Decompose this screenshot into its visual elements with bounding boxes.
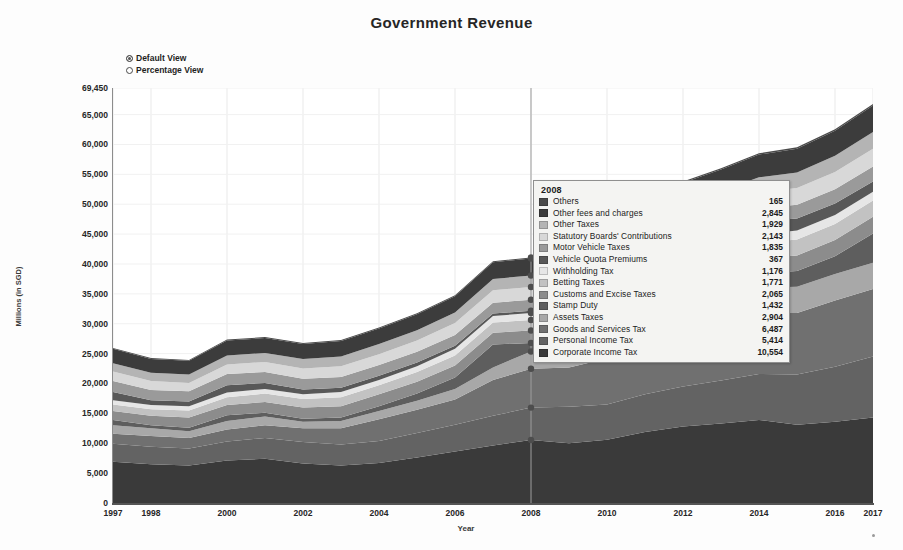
y-axis-tick: 50,000 [42,199,108,209]
y-axis-tick: 25,000 [42,349,108,359]
tooltip-row: Goods and Services Tax6,487 [539,324,783,336]
x-axis-tick: 1997 [104,508,123,518]
y-axis-title: Millions (in SGD) [14,254,23,340]
tooltip-row-list: Others165Other fees and charges2,845Othe… [539,196,783,358]
series-color-swatch-icon [539,291,548,299]
series-color-swatch-icon [539,267,548,275]
tooltip-series-name: Other fees and charges [553,208,741,220]
series-color-swatch-icon [539,337,548,345]
tooltip-series-name: Others [553,196,741,208]
tooltip-row: Customs and Excise Taxes2,065 [539,289,783,301]
chart-page: Government Revenue Default View Percenta… [0,0,903,550]
series-color-swatch-icon [539,325,548,333]
tooltip-series-name: Assets Taxes [553,312,741,324]
tooltip-series-value: 2,845 [741,208,783,220]
radio-selected-icon[interactable] [126,55,133,62]
series-color-swatch-icon [539,256,548,264]
tooltip-series-value: 1,771 [741,277,783,289]
tooltip-series-name: Statutory Boards' Contributions [553,231,741,243]
x-axis-tick: 2012 [674,508,693,518]
x-axis-tick: 2016 [826,508,845,518]
series-color-swatch-icon [539,302,548,310]
tooltip-row: Corporate Income Tax10,554 [539,347,783,359]
tooltip-row: Betting Taxes1,771 [539,277,783,289]
x-axis-tick: 2014 [750,508,769,518]
x-axis-title: Year [458,524,475,533]
x-axis-line [112,503,874,505]
tooltip-row: Stamp Duty1,432 [539,300,783,312]
y-axis-tick: 40,000 [42,259,108,269]
tooltip-row: Statutory Boards' Contributions2,143 [539,231,783,243]
x-axis-tick: 2008 [522,508,541,518]
tooltip-series-name: Betting Taxes [553,277,741,289]
scan-artifact [872,534,875,537]
tooltip-row: Assets Taxes2,904 [539,312,783,324]
page-title: Government Revenue [0,14,903,31]
tooltip-series-value: 1,176 [741,266,783,278]
tooltip-series-value: 6,487 [741,324,783,336]
series-color-swatch-icon [539,244,548,252]
y-axis-tick: 69,450 [42,83,108,93]
x-axis-tick-labels: 1997199820002002200420062008201020122014… [0,508,903,528]
series-color-swatch-icon [539,221,548,229]
hover-point-marker[interactable] [528,437,534,443]
tooltip-series-value: 1,432 [741,300,783,312]
tooltip-series-value: 10,554 [741,347,783,359]
tooltip-series-name: Withholding Tax [553,266,741,278]
view-mode-radio-group[interactable]: Default View Percentage View [126,52,203,76]
tooltip-row: Vehicle Quota Premiums367 [539,254,783,266]
series-color-swatch-icon [539,349,548,357]
tooltip-series-name: Other Taxes [553,219,741,231]
series-color-swatch-icon [539,314,548,322]
tooltip-series-value: 1,929 [741,219,783,231]
y-axis-tick: 45,000 [42,229,108,239]
tooltip-series-name: Corporate Income Tax [553,347,741,359]
tooltip-row: Motor Vehicle Taxes1,835 [539,242,783,254]
series-color-swatch-icon [539,209,548,217]
tooltip-series-value: 2,143 [741,231,783,243]
series-color-swatch-icon [539,279,548,287]
hover-point-marker[interactable] [528,366,534,372]
hover-point-marker[interactable] [528,404,534,410]
tooltip-row: Other fees and charges2,845 [539,208,783,220]
radio-label-default-view: Default View [136,52,186,64]
y-axis-tick: 10,000 [42,438,108,448]
radio-option-default-view[interactable]: Default View [126,52,203,64]
hover-tooltip: 2008 Others165Other fees and charges2,84… [533,180,790,363]
tooltip-series-value: 2,904 [741,312,783,324]
x-axis-tick: 2010 [598,508,617,518]
tooltip-series-name: Customs and Excise Taxes [553,289,741,301]
x-axis-tick: 2002 [294,508,313,518]
y-axis-tick: 15,000 [42,408,108,418]
tooltip-series-value: 1,835 [741,242,783,254]
x-axis-tick: 2000 [218,508,237,518]
tooltip-series-name: Vehicle Quota Premiums [553,254,741,266]
series-color-swatch-icon [539,233,548,241]
x-axis-tick: 2017 [864,508,883,518]
x-axis-tick: 1998 [142,508,161,518]
y-axis-tick: 35,000 [42,289,108,299]
tooltip-row: Other Taxes1,929 [539,219,783,231]
series-color-swatch-icon [539,198,548,206]
tooltip-series-value: 165 [741,196,783,208]
radio-option-percentage-view[interactable]: Percentage View [126,64,203,76]
x-axis-tick: 2004 [370,508,389,518]
tooltip-series-value: 2,065 [741,289,783,301]
tooltip-series-value: 367 [741,254,783,266]
tooltip-series-name: Goods and Services Tax [553,324,741,336]
tooltip-row: Personal Income Tax5,414 [539,335,783,347]
y-axis-tick: 30,000 [42,319,108,329]
tooltip-row: Others165 [539,196,783,208]
y-axis-tick: 65,000 [42,110,108,120]
tooltip-year-label: 2008 [541,185,783,195]
radio-label-percentage-view: Percentage View [136,64,203,76]
tooltip-series-value: 5,414 [741,335,783,347]
x-axis-tick: 2006 [446,508,465,518]
tooltip-series-name: Personal Income Tax [553,335,741,347]
tooltip-row: Withholding Tax1,176 [539,266,783,278]
y-axis-tick: 20,000 [42,378,108,388]
tooltip-series-name: Stamp Duty [553,300,741,312]
y-axis-tick-labels: 05,00010,00015,00020,00025,00030,00035,0… [34,0,108,550]
y-axis-tick: 0 [42,498,108,508]
radio-unselected-icon[interactable] [126,67,133,74]
